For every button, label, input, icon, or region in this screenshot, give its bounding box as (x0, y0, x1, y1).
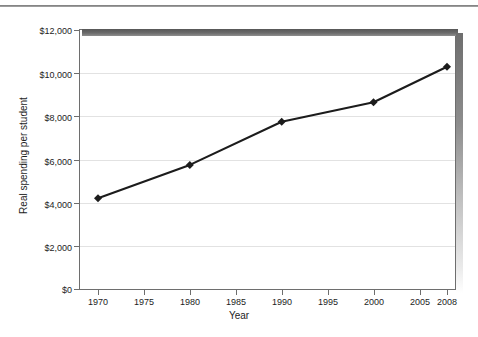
xtick-label-2000: 2000 (354, 297, 394, 308)
x-axis-title: Year (0, 310, 478, 321)
xtick-mark-1975 (144, 290, 145, 295)
xtick-mark-1985 (236, 290, 237, 295)
xtick-label-1985: 1985 (216, 297, 256, 308)
xtick-mark-2005 (420, 290, 421, 295)
xtick-label-1980: 1980 (170, 297, 210, 308)
xtick-label-1975: 1975 (124, 297, 164, 308)
ytick-label-8000: $8,000 (44, 113, 72, 123)
ytick-mark-2000 (74, 246, 79, 247)
ytick-mark-4000 (74, 203, 79, 204)
ytick-mark-8000 (74, 116, 79, 117)
gridline-6000 (80, 160, 455, 161)
chart-figure: $12,000 $10,000 $8,000 $6,000 $4,000 $2,… (0, 0, 478, 337)
ytick-label-4000: $4,000 (44, 200, 72, 210)
plot-top-shadow-band (82, 29, 458, 36)
ytick-mark-0 (74, 289, 79, 290)
gridline-2000 (80, 246, 455, 247)
ytick-mark-6000 (74, 160, 79, 161)
xtick-label-1990: 1990 (262, 297, 302, 308)
ytick-mark-10000 (74, 73, 79, 74)
ytick-mark-12000 (74, 30, 79, 31)
xtick-mark-2000 (374, 290, 375, 295)
xtick-mark-1970 (98, 290, 99, 295)
xtick-mark-1980 (190, 290, 191, 295)
xtick-label-2008: 2008 (427, 297, 467, 308)
top-divider-rule (0, 5, 478, 7)
gridline-10000 (80, 73, 455, 74)
ytick-label-0: $0 (62, 285, 72, 295)
gridline-4000 (80, 203, 455, 204)
xtick-label-1970: 1970 (78, 297, 118, 308)
xtick-mark-1995 (328, 290, 329, 295)
ytick-label-6000: $6,000 (44, 157, 72, 167)
plot-right-shadow-band (456, 33, 463, 293)
ytick-label-10000: $10,000 (39, 70, 72, 80)
xtick-mark-2008 (447, 290, 448, 295)
xtick-label-1995: 1995 (308, 297, 348, 308)
xtick-mark-1990 (282, 290, 283, 295)
ytick-label-12000: $12,000 (39, 26, 72, 36)
y-axis-title: Real spending per student (18, 86, 29, 226)
gridline-8000 (80, 116, 455, 117)
ytick-label-2000: $2,000 (44, 243, 72, 253)
